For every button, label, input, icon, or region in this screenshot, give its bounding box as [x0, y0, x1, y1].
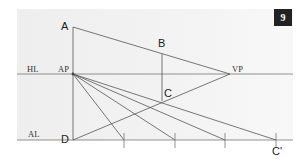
label-b: B: [158, 37, 165, 49]
ap-fan-line-2: [73, 74, 175, 140]
label-vp: VP: [232, 64, 243, 74]
ap-fan-line-4: [73, 74, 276, 140]
perspective-diagram: A B C D C' AP VP HL AL 9: [0, 0, 308, 161]
label-d: D: [61, 133, 69, 145]
ap-fan-line-1: [73, 74, 124, 140]
figure-number: 9: [281, 12, 286, 23]
label-a: A: [61, 20, 69, 32]
a-to-vp-line: [73, 27, 230, 74]
ap-point: [72, 73, 75, 76]
label-ap: AP: [58, 64, 69, 74]
label-al: AL: [28, 129, 39, 139]
label-hl: HL: [27, 64, 38, 74]
label-c-prime: C': [272, 145, 282, 157]
label-c: C: [164, 87, 172, 99]
